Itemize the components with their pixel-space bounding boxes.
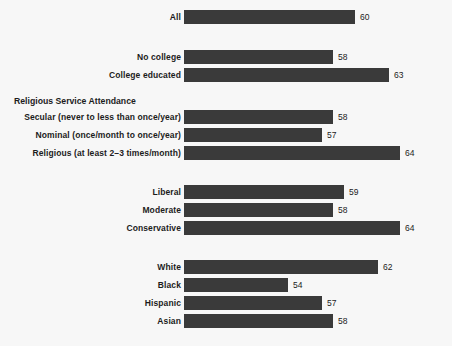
bar: [184, 203, 333, 217]
chart-row: College educated63: [0, 68, 452, 82]
chart-row: Nominal (once/month to once/year)57: [0, 128, 452, 142]
bar-category-label: White: [0, 260, 181, 274]
bar-category-label: Moderate: [0, 203, 181, 217]
bar-value-label: 64: [405, 221, 414, 235]
bar: [184, 185, 344, 199]
bar: [184, 128, 322, 142]
bar-value-label: 57: [327, 296, 336, 310]
bar-category-label: Black: [0, 278, 181, 292]
group-header: Religious Service Attendance: [14, 95, 136, 107]
chart-row: White62: [0, 260, 452, 274]
bar: [184, 68, 389, 82]
bar-value-label: 58: [338, 314, 347, 328]
chart-row: Black54: [0, 278, 452, 292]
chart-row: Asian58: [0, 314, 452, 328]
bar-category-label: Asian: [0, 314, 181, 328]
bar: [184, 110, 333, 124]
bar-value-label: 59: [349, 185, 358, 199]
chart-row: Conservative64: [0, 221, 452, 235]
bar-value-label: 58: [338, 50, 347, 64]
bar-value-label: 60: [360, 10, 369, 24]
bar-category-label: Secular (never to less than once/year): [0, 110, 181, 124]
bar: [184, 278, 288, 292]
bar-category-label: No college: [0, 50, 181, 64]
bar-category-label: Nominal (once/month to once/year): [0, 128, 181, 142]
bar-value-label: 58: [338, 203, 347, 217]
chart-row: Liberal59: [0, 185, 452, 199]
chart-row: All60: [0, 10, 452, 24]
bar-category-label: Religious (at least 2–3 times/month): [0, 146, 181, 160]
bar: [184, 50, 333, 64]
bar-value-label: 64: [405, 146, 414, 160]
bar-value-label: 54: [293, 278, 302, 292]
bar: [184, 260, 378, 274]
bar-value-label: 62: [383, 260, 392, 274]
chart-row: No college58: [0, 50, 452, 64]
bar-value-label: 58: [338, 110, 347, 124]
chart-row: Secular (never to less than once/year)58: [0, 110, 452, 124]
chart-row: Hispanic57: [0, 296, 452, 310]
bar: [184, 146, 400, 160]
bar-category-label: Liberal: [0, 185, 181, 199]
chart-row: Moderate58: [0, 203, 452, 217]
bar-value-label: 63: [394, 68, 403, 82]
bar: [184, 221, 400, 235]
bar-category-label: All: [0, 10, 181, 24]
bar-category-label: College educated: [0, 68, 181, 82]
bar-category-label: Hispanic: [0, 296, 181, 310]
bar-value-label: 57: [327, 128, 336, 142]
bar: [184, 10, 355, 24]
bar: [184, 314, 333, 328]
bar-category-label: Conservative: [0, 221, 181, 235]
bar: [184, 296, 322, 310]
bar-chart: All60No college58College educated63Relig…: [0, 0, 452, 346]
chart-row: Religious (at least 2–3 times/month)64: [0, 146, 452, 160]
